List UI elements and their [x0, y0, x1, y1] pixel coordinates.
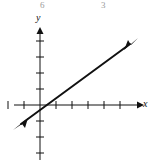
- graph-screenshot: 6 3: [0, 0, 156, 162]
- coordinate-plane: [0, 0, 156, 162]
- line-arrowhead-upper-right-icon: [124, 38, 138, 50]
- line-arrowhead-lower-left-icon: [13, 118, 28, 130]
- x-axis-label: x: [143, 99, 147, 109]
- data-line-series: [13, 38, 138, 130]
- y-axis-arrowhead-icon: [37, 27, 44, 34]
- y-axis-label: y: [36, 13, 40, 23]
- line-segment: [21, 44, 130, 124]
